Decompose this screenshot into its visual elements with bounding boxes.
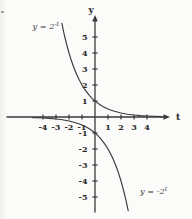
x-tick-label: -4 [39, 122, 48, 132]
x-tick-label: -3 [52, 122, 61, 132]
y-tick-label: 1 [82, 96, 88, 106]
curve-equation-label-y-eq-2-pow-neg-t: y = 2-t [32, 20, 60, 31]
y-tick-label: 3 [82, 64, 88, 74]
scan-artifact-mark [1, 11, 4, 13]
y-tick-label: -4 [79, 176, 88, 186]
y-tick-label: 4 [82, 48, 88, 58]
scanned-figure: -4-3-2-1123454321-1-2-3-4-5yty = 2-ty = … [0, 0, 192, 219]
y-tick-label: -2 [79, 144, 88, 154]
y-tick-label: -1 [79, 128, 88, 138]
graph-canvas: -4-3-2-1123454321-1-2-3-4-5yty = 2-ty = … [0, 0, 192, 219]
t-axis-arrow-icon [164, 114, 171, 120]
y-tick-label: 5 [82, 32, 88, 42]
x-axis-label: t [176, 112, 181, 122]
y-tick-label: -5 [79, 192, 88, 202]
curve-equation-label-y-eq-neg-2-pow-t: y = -2t [139, 185, 168, 196]
curve-y-eq-2-pow-neg-t [62, 23, 163, 116]
x-tick-label: 4 [144, 122, 150, 132]
x-tick-label: 2 [118, 122, 124, 132]
y-tick-label: -3 [79, 160, 88, 170]
y-axis-label: y [87, 5, 94, 15]
x-tick-label: 1 [105, 122, 111, 132]
x-tick-label: -2 [65, 122, 74, 132]
y-axis-arrow-icon [92, 15, 98, 22]
x-tick-label: 3 [131, 122, 137, 132]
